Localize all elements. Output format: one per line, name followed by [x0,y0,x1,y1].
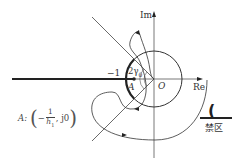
legend-line [200,117,232,119]
imag-axis-label: Im [140,11,152,20]
formula-open-paren: ( [30,108,38,128]
point-a-formula: A: ( − 1 h1 , j0 ) [18,108,77,128]
angle-label: 2γ0 [128,67,142,78]
formula-prefix: A: [18,113,27,123]
real-axis-label: Re [193,83,205,92]
curve-arrow-mid [134,107,139,111]
curve-arrow-bottom [122,133,127,137]
legend-forbidden-zone-label: 禁区 [205,121,223,134]
imag-axis-arrow [152,11,156,17]
formula-minus: − [38,113,45,123]
diagonal-lower [92,79,154,141]
formula-fraction: 1 h1 [46,108,55,127]
angle-symbol: 2γ [128,66,139,76]
minus-one-label: −1 [107,69,120,78]
origin-label: O [158,82,165,91]
formula-suffix: , j0 [56,113,69,123]
formula-denominator-sub: 1 [51,121,54,127]
point-a-label: A [128,83,135,92]
formula-close-paren: ) [69,108,77,128]
curve-arrow-top [135,30,140,35]
angle-subscript: 0 [139,71,143,78]
real-axis-arrow [197,77,203,81]
formula-denominator: h1 [46,118,54,128]
point-a [132,77,136,81]
